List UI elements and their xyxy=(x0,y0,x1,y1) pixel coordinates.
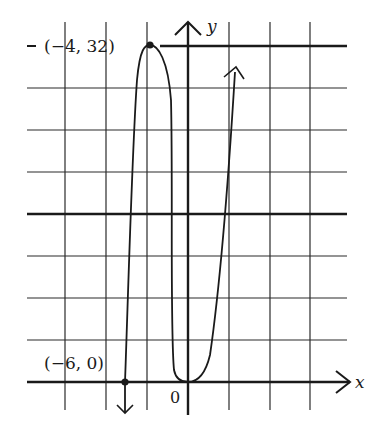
cubic-graph: x y 0 (−4, 32) (−6, 0) xyxy=(0,0,371,439)
x-axis-label: x xyxy=(355,372,365,392)
root-point-marker xyxy=(121,378,128,385)
y-axis-label: y xyxy=(206,16,217,36)
max-point-marker xyxy=(146,41,153,48)
max-point-label: (−4, 32) xyxy=(44,36,115,56)
function-curve xyxy=(125,45,235,412)
origin-label: 0 xyxy=(170,388,180,407)
root-point-label: (−6, 0) xyxy=(44,353,104,373)
